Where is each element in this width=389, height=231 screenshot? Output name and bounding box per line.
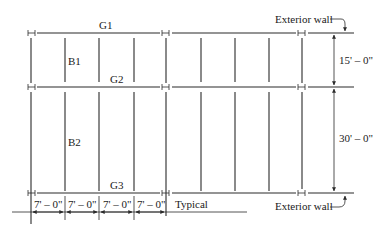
bay-dimension-2: 7' – 0" — [68, 198, 96, 210]
exterior-wall-top-label: Exterior wall — [275, 13, 333, 25]
bay-dimension-3: 7' – 0" — [103, 198, 131, 210]
exterior-wall-bottom-label: Exterior wall — [275, 200, 333, 212]
dimension-30ft: 30' – 0" — [339, 132, 373, 144]
dimension-15ft: 15' – 0" — [339, 54, 373, 66]
girder-label-g3: G3 — [110, 179, 124, 191]
beam-label-b2: B2 — [68, 136, 81, 148]
framing-plan-diagram: G1 G2 G3 B1 B2 15' – 0" 30' – 0" Exterio… — [0, 0, 389, 231]
girder-label-g2: G2 — [110, 73, 123, 85]
typical-label: Typical — [175, 198, 208, 210]
girder-label-g1: G1 — [99, 19, 112, 31]
beam-lines — [65, 38, 269, 191]
bay-dimension-1: 7' – 0" — [34, 198, 62, 210]
bay-dimension-4: 7' – 0" — [137, 198, 165, 210]
beam-label-b1: B1 — [68, 55, 81, 67]
